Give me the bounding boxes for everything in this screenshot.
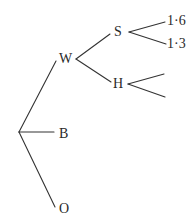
edge-root-o	[19, 132, 55, 207]
edge-w-s	[76, 34, 110, 59]
node-s: S	[114, 25, 122, 39]
tree-edges	[0, 0, 193, 220]
node-w: W	[59, 52, 72, 66]
edge-h-leaf1	[128, 74, 164, 84]
leaf-s-1: 1·6	[167, 14, 186, 28]
edge-h-leaf2	[128, 84, 165, 97]
edge-w-h	[76, 59, 111, 82]
leaf-s-2: 1·3	[167, 37, 186, 51]
node-h: H	[113, 77, 123, 91]
edge-s-leaf1	[129, 22, 165, 32]
edge-s-leaf2	[129, 32, 166, 44]
node-o: O	[59, 202, 69, 216]
node-b: B	[59, 127, 68, 141]
edge-root-w	[19, 61, 56, 132]
tree-diagram: W S H 1·6 1·3 B O	[0, 0, 193, 220]
